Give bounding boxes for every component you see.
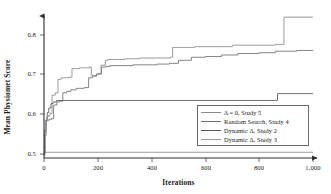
chart-legend: Δ = 0, Study 5 Random Search, Study 4 Dy… [197,105,309,146]
y-axis-label: Mean Physiomet Score [2,0,14,194]
legend-label-series-2: Random Search, Study 4 [224,117,289,126]
legend-swatch-series-4 [201,139,221,140]
legend-item-delta-0-study-5: Δ = 0, Study 5 [201,108,305,117]
x-axis-ticks [44,158,313,162]
y-tick-label-0.5: 0.5 [14,150,36,157]
legend-item-dynamic-study-2: Dynamic Δ, Study 2 [201,126,305,135]
legend-swatch-series-3 [201,130,221,131]
y-tick-label-0.6: 0.6 [14,110,36,117]
legend-swatch-series-1 [201,112,221,113]
chart-figure: Mean Physiomet Score Iterations 0.8 0.7 … [0,0,331,194]
x-tick-label-600: 600 [191,164,221,171]
x-tick-label-400: 400 [137,164,167,171]
legend-label-series-1: Δ = 0, Study 5 [224,108,261,117]
legend-item-dynamic-study-3: Dynamic Δ, Study 3 [201,135,305,144]
x-tick-label-200: 200 [83,164,113,171]
x-axis-label: Iterations [44,178,313,187]
legend-swatch-series-2 [201,121,221,122]
y-axis-ticks [40,35,44,154]
y-tick-label-0.7: 0.7 [14,70,36,77]
legend-label-series-4: Dynamic Δ, Study 3 [224,135,277,144]
x-tick-label-1000: 1,000 [298,164,328,171]
x-tick-label-800: 800 [244,164,274,171]
x-tick-label-0: 0 [29,164,59,171]
legend-label-series-3: Dynamic Δ, Study 2 [224,126,277,135]
y-tick-label-0.8: 0.8 [14,31,36,38]
legend-item-random-search-study-4: Random Search, Study 4 [201,117,305,126]
